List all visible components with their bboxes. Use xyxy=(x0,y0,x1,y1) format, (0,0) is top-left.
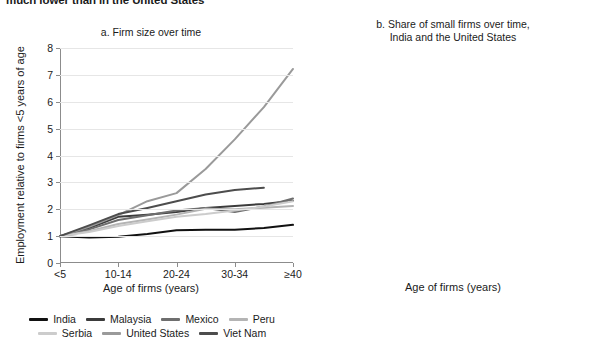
legend-item[interactable]: India xyxy=(29,313,76,325)
legend-item[interactable]: Mexico xyxy=(161,313,218,325)
y-axis-tick xyxy=(56,156,60,157)
gridline xyxy=(60,102,293,103)
y-axis-tick-label: 6 xyxy=(47,96,53,108)
gridline xyxy=(60,48,293,49)
legend-item[interactable]: Peru xyxy=(229,313,275,325)
panel-b-title-line1: b. Share of small firms over time, xyxy=(302,18,604,31)
legend-label: Mexico xyxy=(185,313,218,325)
legend-label: Serbia xyxy=(62,327,92,339)
legend-swatch-icon xyxy=(86,318,105,321)
gridline xyxy=(60,129,293,130)
y-axis-tick-label: 2 xyxy=(47,203,53,215)
y-axis-tick xyxy=(56,129,60,130)
legend-label: Peru xyxy=(253,313,275,325)
legend-swatch-icon xyxy=(29,318,48,321)
y-axis-tick-label: 5 xyxy=(47,123,53,135)
gridline xyxy=(60,182,293,183)
x-axis-tick-label: 10-14 xyxy=(105,268,132,280)
panel-a-plot-area: 012345678<510-1420-2430-34≥40 xyxy=(60,48,293,263)
legend-swatch-icon xyxy=(102,332,121,335)
legend-swatch-icon xyxy=(199,332,218,335)
panel-a-x-axis-title: Age of firms (years) xyxy=(0,282,302,294)
legend-item[interactable]: Viet Nam xyxy=(199,327,266,339)
y-axis-tick xyxy=(56,102,60,103)
y-axis-tick xyxy=(56,236,60,237)
legend-swatch-icon xyxy=(161,318,180,321)
gridline xyxy=(60,236,293,237)
legend-item[interactable]: United States xyxy=(102,327,189,339)
legend-item[interactable]: Serbia xyxy=(38,327,92,339)
panel-a-title: a. Firm size over time xyxy=(0,26,302,39)
panel-b-title-line2: India and the United States xyxy=(302,31,604,44)
panel-a-y-axis-title: Employment relative to firms <5 years of… xyxy=(14,46,26,264)
x-axis-tick xyxy=(293,263,294,267)
gridline xyxy=(60,209,293,210)
panel-a-firm-size: a. Firm size over time Employment relati… xyxy=(0,0,302,354)
y-axis-tick-label: 8 xyxy=(47,42,53,54)
figure-root: much lower than in the United States a. … xyxy=(0,0,604,354)
legend-item[interactable]: Malaysia xyxy=(86,313,151,325)
panel-b-small-firm-share: b. Share of small firms over time, India… xyxy=(302,0,604,354)
x-axis-tick-label: 30-34 xyxy=(221,268,248,280)
y-axis-tick xyxy=(56,209,60,210)
x-axis-tick-label: <5 xyxy=(54,268,66,280)
x-axis-tick xyxy=(118,263,119,267)
legend-label: India xyxy=(53,313,76,325)
x-axis-tick-label: ≥40 xyxy=(284,268,301,280)
y-axis-tick-label: 0 xyxy=(47,257,53,269)
x-axis-tick xyxy=(235,263,236,267)
x-axis-tick xyxy=(177,263,178,267)
y-axis-tick xyxy=(56,182,60,183)
panel-a-legend: IndiaMalaysiaMexicoPeruSerbiaUnited Stat… xyxy=(8,313,296,339)
x-axis-tick-label: 20-24 xyxy=(163,268,190,280)
legend-swatch-icon xyxy=(229,318,248,321)
y-axis-tick xyxy=(56,48,60,49)
legend-swatch-icon xyxy=(38,332,57,335)
y-axis-tick-label: 1 xyxy=(47,230,53,242)
gridline xyxy=(60,156,293,157)
y-axis-tick-label: 7 xyxy=(47,69,53,81)
y-axis-tick xyxy=(56,75,60,76)
y-axis-tick-label: 4 xyxy=(47,150,53,162)
panel-b-x-axis-title: Age of firms (years) xyxy=(302,281,604,293)
panel-b-title: b. Share of small firms over time, India… xyxy=(302,18,604,43)
gridline xyxy=(60,75,293,76)
x-axis-tick xyxy=(60,263,61,267)
legend-label: United States xyxy=(126,327,189,339)
legend-label: Viet Nam xyxy=(223,327,266,339)
legend-label: Malaysia xyxy=(110,313,151,325)
y-axis-tick-label: 3 xyxy=(47,176,53,188)
